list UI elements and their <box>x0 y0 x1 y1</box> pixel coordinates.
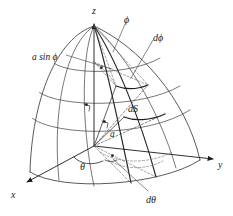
radius-label: a <box>110 130 115 140</box>
d-theta-label: dθ <box>146 195 156 205</box>
spherical-coordinates-figure: z x y ϕ dϕ a sin ϕ dS a θ dθ <box>0 0 233 216</box>
phi-angle-label: ϕ <box>124 15 129 25</box>
surface-element-label: dS <box>128 104 138 114</box>
theta-angle-label: θ <box>80 162 85 172</box>
diagram-canvas <box>0 0 233 216</box>
d-phi-label: dϕ <box>153 33 163 43</box>
a-sin-phi-label: a sin ϕ <box>32 53 58 63</box>
axis-label-z: z <box>92 6 96 16</box>
axis-label-x: x <box>11 190 15 200</box>
axis-label-y: y <box>218 160 222 170</box>
